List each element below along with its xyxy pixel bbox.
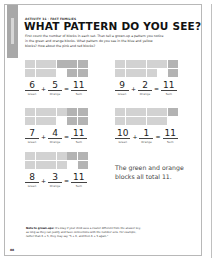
sum-value: 11: [71, 129, 86, 139]
green-block: [46, 60, 56, 68]
equation: 8Green + 3Orange = 11Sum: [25, 174, 87, 188]
green-block: [115, 69, 125, 77]
sum-label: Sum: [167, 140, 173, 144]
orange-count: 1: [139, 129, 153, 139]
green-block: [147, 108, 157, 116]
green-block: [36, 69, 46, 77]
green-block: [115, 117, 125, 125]
orange-block: [67, 152, 77, 160]
green-block: [36, 161, 46, 169]
green-count: 6: [25, 81, 39, 91]
green-label: Green: [118, 92, 126, 96]
green-count: 7: [25, 129, 39, 139]
green-block: [157, 60, 167, 68]
green-count: 9: [115, 81, 129, 91]
side-tab-label: [11, 18, 14, 44]
orange-count: 2: [138, 81, 152, 91]
green-block: [157, 117, 167, 125]
page-title: WHAT PATTERN DO YOU SEE?: [24, 20, 201, 32]
page-number: 88: [10, 248, 14, 252]
green-block: [57, 152, 67, 160]
problem-1: 6Green + 5Orange = 11Sum: [25, 60, 87, 96]
equation: 6Green + 5Orange = 11Sum: [25, 82, 87, 96]
green-block: [36, 152, 46, 160]
green-block: [36, 60, 46, 68]
sum-label: Sum: [76, 184, 82, 188]
equation: 10Green + 1Orange = 11Sum: [115, 130, 177, 144]
equation: 7Green + 4Orange = 11Sum: [25, 130, 87, 144]
sum-value: 11: [71, 81, 86, 91]
green-block: [25, 152, 35, 160]
green-block: [36, 117, 46, 125]
empty-cell: [57, 117, 67, 125]
orange-block: [78, 60, 88, 68]
next-page-edge: [211, 4, 212, 258]
green-block: [147, 117, 157, 125]
sum-label: Sum: [76, 140, 82, 144]
orange-count: 3: [48, 173, 62, 183]
green-block: [126, 117, 136, 125]
orange-block: [67, 117, 77, 125]
block-grid: [115, 108, 177, 125]
orange-block: [78, 117, 88, 125]
empty-cell: [57, 69, 67, 77]
plus-sign: +: [39, 85, 48, 92]
note-heading: Note to grown-ups:: [26, 227, 54, 230]
grown-up-note: Note to grown-ups: It's okay if your chi…: [26, 227, 144, 239]
green-block: [147, 69, 157, 77]
equals-sign: =: [62, 133, 71, 140]
orange-block: [67, 69, 77, 77]
orange-label: Orange: [141, 140, 151, 144]
green-block: [115, 60, 125, 68]
green-label: Green: [28, 92, 36, 96]
equation: 9Green + 2Orange = 11Sum: [115, 82, 177, 96]
empty-cell: [157, 69, 167, 77]
green-count: 8: [25, 173, 39, 183]
green-block: [57, 108, 67, 116]
green-block: [126, 69, 136, 77]
orange-block: [78, 152, 88, 160]
orange-count: 5: [48, 81, 62, 91]
green-block: [136, 108, 146, 116]
green-block: [25, 69, 35, 77]
orange-block: [57, 60, 67, 68]
green-block: [57, 161, 67, 169]
orange-label: Orange: [50, 140, 60, 144]
sum-value: 11: [161, 81, 176, 91]
green-block: [46, 108, 56, 116]
sum-value: 11: [163, 129, 178, 139]
orange-label: Orange: [140, 92, 150, 96]
green-block: [25, 108, 35, 116]
plus-sign: +: [39, 133, 48, 140]
green-block: [136, 117, 146, 125]
green-block: [147, 60, 157, 68]
green-block: [25, 117, 35, 125]
green-block: [25, 60, 35, 68]
empty-cell: [168, 117, 178, 125]
orange-block: [168, 69, 178, 77]
green-label: Green: [28, 140, 36, 144]
green-block: [126, 108, 136, 116]
green-label: Green: [28, 184, 36, 188]
orange-block: [67, 108, 77, 116]
orange-block: [78, 161, 88, 169]
problem-4: 10Green + 1Orange = 11Sum: [115, 108, 177, 144]
equals-sign: =: [153, 133, 162, 140]
problem-2: 9Green + 2Orange = 11Sum: [115, 60, 177, 96]
equals-sign: =: [62, 85, 71, 92]
orange-block: [67, 60, 77, 68]
green-block: [115, 108, 125, 116]
sum-label: Sum: [166, 92, 172, 96]
plus-sign: +: [39, 177, 48, 184]
orange-count: 4: [48, 129, 62, 139]
green-block: [136, 69, 146, 77]
green-block: [46, 161, 56, 169]
green-count: 10: [115, 129, 130, 139]
equals-sign: =: [62, 177, 71, 184]
green-block: [46, 152, 56, 160]
block-grid: [115, 60, 177, 77]
block-grid: [25, 108, 87, 125]
green-label: Green: [118, 140, 126, 144]
equals-sign: =: [152, 85, 161, 92]
instructions: First count the number of blocks in each…: [25, 34, 165, 49]
